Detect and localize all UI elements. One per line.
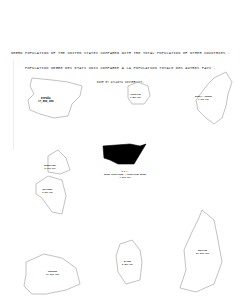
spain-map — [28, 78, 82, 118]
label-spain: ESPAÑA 17,500,000 — [38, 97, 54, 103]
label-belgium: BELGIQUE 6,500,000 — [42, 188, 53, 194]
usa-map — [103, 144, 146, 164]
country-maps — [0, 0, 241, 308]
label-netherlands: NEDERLANDS 5,000,000 — [44, 164, 56, 170]
belgium-map — [36, 176, 66, 214]
label-hungary: HONGRIE 17,500,000 — [46, 270, 59, 276]
label-bayern: BAYERN 5,800,000 — [122, 260, 133, 266]
netherlands-map — [48, 150, 70, 174]
label-england: ENGLAND 27,500,000 — [196, 249, 209, 255]
label-scandinavia: NORWAY, SWEDEN 7,000,000 — [195, 95, 212, 101]
label-australia: AUSTRALIE 3,800,000 — [130, 93, 141, 99]
label-usa: U.S.A. NEGRO POPULATION / POPULATION NÈG… — [104, 170, 146, 179]
